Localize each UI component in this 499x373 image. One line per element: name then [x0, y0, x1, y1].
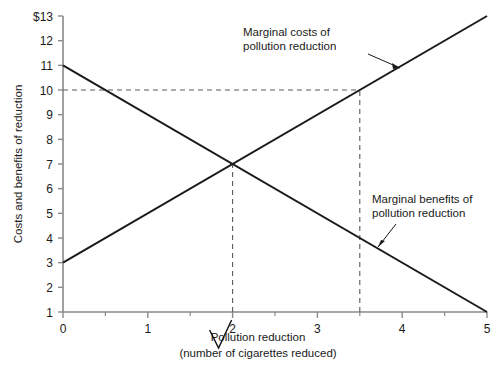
x-tick-label-5: 5 — [484, 322, 491, 336]
economics-line-chart: 123456789101112$13 012345 Costs and bene… — [0, 0, 499, 373]
y-tick-label-13: $13 — [33, 10, 53, 24]
annotation-marginal-benefits-line1: Marginal benefits of — [372, 193, 473, 205]
x-tick-label-0: 0 — [60, 322, 67, 336]
y-tick-label-9: 9 — [46, 108, 53, 122]
annotation-marginal-benefits-line2: pollution reduction — [372, 207, 465, 219]
y-tick-label-10: 10 — [40, 84, 54, 98]
y-axis-title: Costs and benefits of reduction — [12, 85, 24, 244]
y-tick-label-12: 12 — [40, 34, 54, 48]
chart-figure: 123456789101112$13 012345 Costs and bene… — [0, 0, 499, 373]
y-tick-label-2: 2 — [46, 281, 53, 295]
y-tick-label-5: 5 — [46, 207, 53, 221]
annotation-marginal-costs-line1: Marginal costs of — [243, 26, 331, 38]
annotation-marginal-costs-line2: pollution reduction — [243, 40, 336, 52]
y-tick-label-3: 3 — [46, 256, 53, 270]
y-tick-label-6: 6 — [46, 182, 53, 196]
y-tick-label-7: 7 — [46, 158, 53, 172]
y-tick-label-4: 4 — [46, 232, 53, 246]
y-tick-label-8: 8 — [46, 133, 53, 147]
x-tick-label-3: 3 — [314, 322, 321, 336]
chart-background — [0, 0, 499, 373]
x-tick-label-1: 1 — [144, 322, 151, 336]
x-tick-label-4: 4 — [399, 322, 406, 336]
x-axis-title: Pollution reduction — [211, 331, 306, 343]
y-tick-label-11: 11 — [41, 59, 54, 73]
x-axis-subtitle: (number of cigarettes reduced) — [179, 347, 336, 359]
y-tick-label-1: 1 — [46, 306, 53, 320]
